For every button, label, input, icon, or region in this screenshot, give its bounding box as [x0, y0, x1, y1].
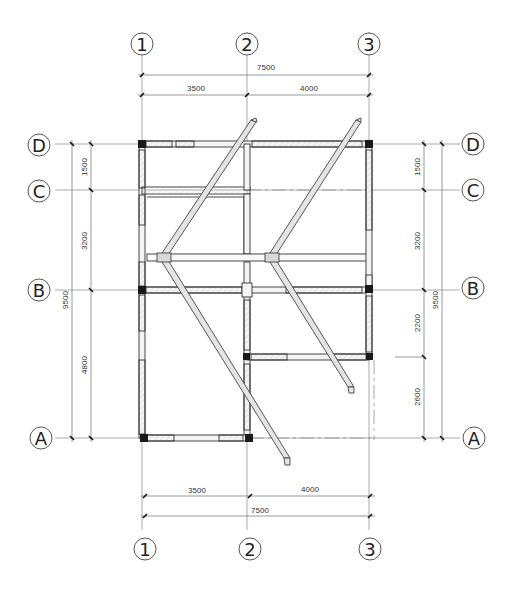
column-B1 — [138, 286, 146, 294]
ramp-right-lower — [270, 260, 354, 387]
svg-text:C: C — [33, 181, 46, 202]
axis-bubble-B-right: B — [462, 277, 484, 299]
dim-bottom-seg-2: 4000 — [301, 485, 319, 494]
dim-left-seg-1: 1500 — [80, 158, 89, 176]
grid-lines — [55, 32, 460, 530]
svg-text:B: B — [467, 278, 479, 299]
column-B3 — [365, 285, 373, 293]
axis-bubbles-right: D C B A — [462, 133, 485, 449]
landing-right — [265, 253, 279, 262]
axis-bubble-3-bottom: 3 — [359, 538, 381, 560]
dim-left-seg-3: 4800 — [80, 356, 89, 374]
axis-bubble-2-top: 2 — [236, 33, 258, 55]
dim-right-total: 9500 — [431, 291, 440, 309]
axis-bubbles-bottom: 1 2 3 — [134, 538, 381, 560]
axis-bubble-D-left: D — [28, 134, 50, 156]
svg-text:C: C — [467, 180, 480, 201]
dim-top-seg-1: 3500 — [187, 84, 205, 93]
svg-text:2: 2 — [244, 539, 255, 560]
dim-bottom-seg-1: 3500 — [188, 486, 206, 495]
axis-bubble-1-top: 1 — [131, 33, 153, 55]
walls — [139, 141, 372, 441]
column-D3 — [365, 140, 373, 148]
axis-bubbles-top: 1 2 3 — [131, 33, 380, 55]
dim-right-seg-2: 3200 — [413, 232, 422, 250]
axis-bubble-D-right: D — [462, 133, 484, 155]
dim-top-seg-2: 4000 — [300, 84, 318, 93]
svg-text:A: A — [468, 428, 481, 449]
dim-right-seg-4: 2600 — [413, 388, 422, 406]
dim-right-seg-1: 1500 — [413, 158, 422, 176]
dim-top-total: 7500 — [257, 63, 275, 72]
svg-text:D: D — [466, 134, 480, 155]
axis-bubble-1-bottom: 1 — [134, 538, 156, 560]
axis-bubbles-left: D C B A — [28, 134, 52, 449]
axis-bubble-3-top: 3 — [358, 33, 380, 55]
column-mid3 — [366, 353, 373, 360]
svg-text:1: 1 — [136, 34, 147, 55]
axis-bubble-B-left: B — [28, 279, 50, 301]
svg-text:3: 3 — [363, 34, 374, 55]
axis-bubble-A-left: A — [30, 427, 52, 449]
svg-text:D: D — [32, 135, 46, 156]
svg-text:A: A — [35, 428, 48, 449]
svg-text:1: 1 — [139, 539, 150, 560]
column-D1 — [138, 140, 146, 148]
svg-text:3: 3 — [364, 539, 375, 560]
column-mid2 — [243, 353, 250, 360]
ramp-right-lower-end — [348, 387, 354, 393]
floor-plan-drawing: 1 2 3 1 2 3 D C — [0, 0, 513, 592]
dim-bottom-total: 7500 — [251, 506, 269, 515]
dimension-ticks — [70, 73, 444, 518]
ramp-left-lower-end — [284, 458, 290, 465]
svg-text:B: B — [33, 280, 45, 301]
landing-left — [157, 253, 171, 262]
column-A1 — [140, 434, 148, 442]
axis-bubble-C-left: C — [28, 180, 50, 202]
axis-bubble-C-right: C — [462, 179, 484, 201]
dim-left-total: 9500 — [61, 291, 70, 309]
svg-text:2: 2 — [241, 34, 252, 55]
axis-bubble-A-right: A — [463, 427, 485, 449]
dim-left-seg-2: 3200 — [80, 232, 89, 250]
dim-right-seg-3: 2200 — [413, 314, 422, 332]
axis-bubble-2-bottom: 2 — [239, 538, 261, 560]
column-A2 — [245, 434, 253, 442]
